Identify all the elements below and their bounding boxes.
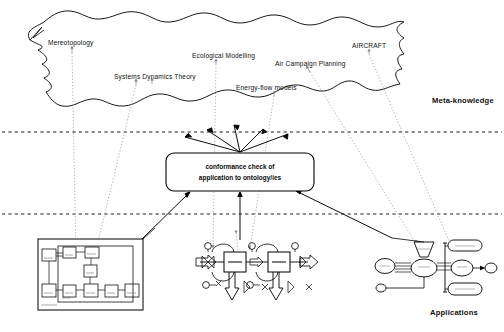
layer-label-applications: Applications	[430, 309, 478, 317]
app-block-diagram	[38, 228, 155, 310]
ontology-label-energy-flow-models: Energy-flow models	[236, 85, 297, 92]
ontology-label-mereotopology: Mereotopology	[48, 40, 94, 47]
conformance-check-line-2: application to ontology/ies	[166, 173, 314, 184]
ontology-label-air-campaign-planning: Air Campaign Planning	[275, 61, 346, 68]
ontology-label-ecological-modelling: Ecological Modelling	[192, 53, 255, 60]
conformance-check-line-1: conformance check of	[166, 162, 314, 173]
application-to-conformance-arrows	[142, 190, 392, 240]
ontology-label-systems-dynamics-theory: Systems Dynamics Theory	[114, 74, 196, 81]
network-leader-lines	[392, 238, 424, 242]
ontology-label-aircraft: AIRCRAFT	[352, 43, 386, 50]
diagram-canvas: Mereotopology Systems Dynamics Theory Ec…	[0, 0, 504, 332]
app-process-schematic	[196, 243, 318, 300]
conformance-to-ontology-arrows	[185, 125, 288, 152]
layer-label-meta-knowledge: Meta-knowledge	[432, 97, 494, 105]
app-network-diagram	[375, 240, 497, 295]
